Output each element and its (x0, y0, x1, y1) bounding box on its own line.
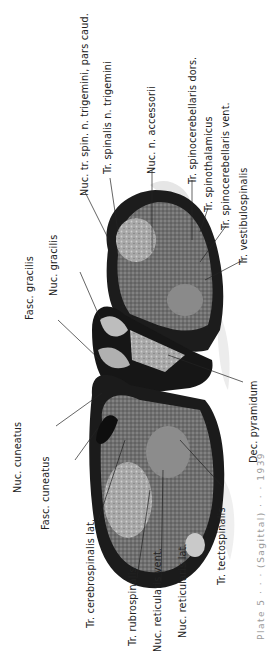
label-tr-spinalis-trigemini: Tr. spinalis n. trigemini (102, 61, 113, 174)
label-nuc-n-accessorii: Nuc. n. accessorii (146, 86, 157, 174)
label-nuc-cuneatus: Nuc. cuneatus (12, 422, 23, 493)
label-tr-spinocerebellaris-dors: Tr. spinocerebellaris dors. (187, 57, 198, 184)
label-nuc-gracilis: Nuc. gracilis (48, 235, 59, 296)
label-tr-spinocerebellaris-vent: Tr. spinocerebellaris vent. (220, 102, 231, 230)
label-fasc-gracilis: Fasc. gracilis (24, 256, 35, 320)
anatomical-plate: Nuc. tr. spin. n. trigemini, pars caud. … (0, 0, 267, 656)
label-nuc-reticularis-vent: Nuc. reticularis vent. (152, 548, 163, 652)
label-nuc-reticularis-lat: Nuc. reticularis lat. (177, 543, 188, 638)
label-tr-vestibulospinalis: Tr. vestibulospinalis (238, 167, 249, 265)
label-tr-cerebrospinalis-lat: Tr. cerebrospinalis lat. (85, 519, 96, 628)
label-tr-spinothalamicus: Tr. spinothalamicus (203, 116, 214, 212)
figure-caption: Plate 5 · · · (Sagittal) · · · 1939 (256, 452, 266, 640)
label-tr-rubrospinalis: Tr. rubrospinalis (127, 567, 138, 646)
label-nuc-tr-spin-trigemini: Nuc. tr. spin. n. trigemini, pars caud. (79, 13, 90, 196)
label-fasc-cuneatus: Fasc. cuneatus (40, 456, 51, 530)
label-tr-tectospinalis: Tr. tectospinalis (216, 507, 227, 585)
label-dec-pyramidum: Dec. pyramidum (248, 380, 259, 463)
